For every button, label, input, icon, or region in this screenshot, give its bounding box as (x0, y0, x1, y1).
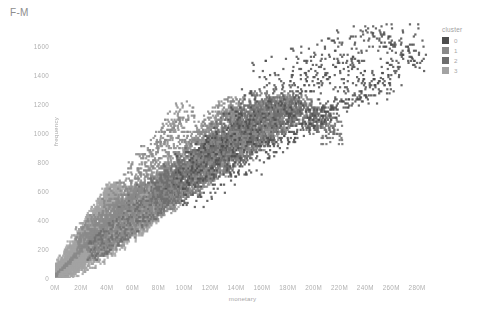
y-tick-label: 600 (38, 188, 49, 195)
x-tick-label: 100M (176, 284, 193, 291)
x-tick-label: 260M (383, 284, 400, 291)
x-tick-label: 280M (409, 284, 426, 291)
legend-item-2[interactable]: 2 (441, 56, 475, 65)
x-tick-label: 40M (100, 284, 113, 291)
x-tick-label: 240M (357, 284, 374, 291)
x-axis-title: monetary (55, 295, 430, 302)
x-tick-label: 160M (253, 284, 270, 291)
legend-title: cluster (442, 26, 475, 33)
y-tick-label: 1200 (34, 101, 49, 108)
legend-item-label: 2 (454, 57, 457, 64)
legend-items: 0123 (441, 36, 475, 75)
y-tick-label: 400 (38, 217, 49, 224)
chart-screenshot: F-M frequency monetary 02004006008001000… (0, 0, 478, 319)
page-title: F-M (10, 7, 29, 18)
x-tick-label: 120M (202, 284, 219, 291)
legend-item-1[interactable]: 1 (441, 46, 475, 55)
x-tick-label: 20M (74, 284, 87, 291)
legend-item-label: 0 (454, 37, 457, 44)
scatter-plot-canvas (55, 20, 430, 278)
legend-swatch-icon (441, 46, 450, 55)
legend-swatch-icon (441, 56, 450, 65)
x-tick-label: 0M (50, 284, 59, 291)
legend-item-label: 3 (454, 67, 457, 74)
y-tick-label: 200 (38, 246, 49, 253)
x-tick-label: 140M (228, 284, 245, 291)
legend-swatch-icon (441, 66, 450, 75)
legend-item-label: 1 (454, 47, 457, 54)
y-tick-label: 0 (45, 275, 49, 282)
y-tick-label: 800 (38, 159, 49, 166)
y-tick-label: 1600 (34, 43, 49, 50)
legend: cluster 0123 (441, 26, 475, 76)
legend-item-0[interactable]: 0 (441, 36, 475, 45)
y-axis-title: frequency (52, 86, 59, 178)
legend-swatch-icon (441, 36, 450, 45)
y-tick-label: 1000 (34, 130, 49, 137)
x-tick-label: 60M (126, 284, 139, 291)
x-tick-label: 200M (305, 284, 322, 291)
scatter-plot-area: frequency monetary 020040060080010001200… (55, 20, 430, 278)
x-tick-label: 180M (279, 284, 296, 291)
x-tick-label: 80M (152, 284, 165, 291)
y-tick-label: 1400 (34, 72, 49, 79)
x-tick-label: 220M (331, 284, 348, 291)
legend-item-3[interactable]: 3 (441, 66, 475, 75)
